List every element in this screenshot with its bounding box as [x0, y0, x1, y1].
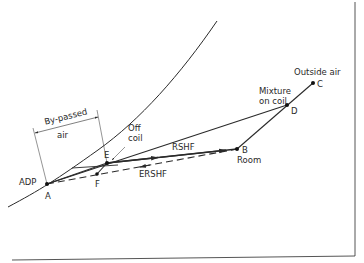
bypass-extension-left — [33, 128, 47, 184]
label-adp: ADP — [19, 177, 37, 187]
label-mixture-1: Mixture — [259, 86, 291, 96]
point-a — [45, 182, 49, 186]
point-c — [311, 81, 315, 85]
line-rshf-arrow — [107, 158, 158, 164]
label-point-d: D — [291, 106, 298, 116]
frame-bottom-edge — [12, 256, 355, 260]
psychrometric-diagram: ADP A E F B D C By-passed air Off coil R… — [0, 0, 364, 263]
point-f — [95, 172, 99, 176]
label-point-f: F — [95, 179, 100, 189]
label-ershf: ERSHF — [139, 169, 167, 179]
line-ershf-arrow — [140, 165, 150, 167]
label-mixture-2: on coil — [259, 96, 287, 106]
off-coil-leader — [112, 147, 125, 160]
label-point-e: E — [104, 150, 109, 160]
label-bypassed-2: air — [57, 130, 69, 140]
label-rshf: RSHF — [172, 142, 195, 152]
label-off-coil-2: coil — [128, 133, 143, 143]
point-e — [105, 161, 109, 165]
label-point-a: A — [45, 191, 51, 201]
label-outside-air: Outside air — [294, 67, 341, 77]
saturation-curve — [8, 21, 217, 207]
label-point-b: B — [242, 145, 248, 155]
label-point-c: C — [317, 79, 323, 89]
label-off-coil-1: Off — [128, 123, 142, 133]
label-bypassed-1: By-passed — [43, 106, 88, 126]
point-b — [235, 147, 239, 151]
label-room: Room — [237, 155, 261, 165]
